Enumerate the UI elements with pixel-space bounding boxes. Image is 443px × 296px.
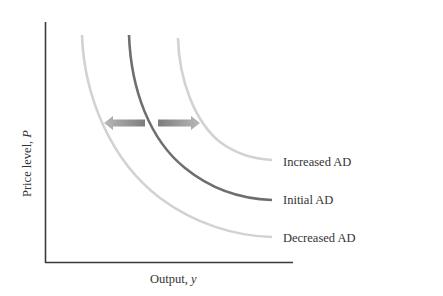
decreased-ad-curve — [82, 35, 272, 237]
ad-shift-diagram: Increased AD Initial AD Decreased AD Out… — [0, 0, 443, 296]
x-axis-title-text: Output, — [150, 272, 191, 286]
y-axis-title-text: Price level, — [20, 138, 34, 197]
x-axis-title: Output, y — [150, 272, 197, 286]
left-shift-arrow-icon — [104, 116, 145, 130]
increased-ad-label: Increased AD — [283, 155, 351, 169]
increased-ad-curve — [178, 38, 272, 160]
right-shift-arrow-icon — [158, 116, 200, 130]
y-axis-title: Price level, P — [20, 130, 34, 197]
decreased-ad-label: Decreased AD — [283, 231, 356, 245]
x-axis-variable: y — [189, 272, 197, 286]
initial-ad-label: Initial AD — [283, 193, 333, 207]
y-axis-variable: P — [20, 130, 34, 139]
